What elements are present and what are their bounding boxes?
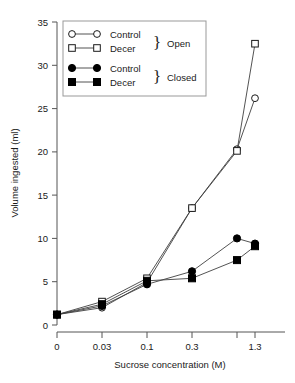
filled-circle-icon [93, 64, 100, 71]
y-axis-title: Volume ingested (ml) [9, 128, 20, 217]
y-tick-label-10: 10 [37, 233, 48, 244]
open-square-icon [94, 45, 101, 52]
x-axis-title: Sucrose concentration (M) [114, 359, 225, 370]
data-point [99, 301, 106, 308]
chart-figure: 0 5 10 15 20 25 30 35 Volume ingested (m… [0, 0, 295, 383]
data-point [252, 40, 259, 47]
x-tick-label-0.3: 0.3 [185, 341, 198, 352]
x-tick-label-0.1: 0.1 [140, 341, 153, 352]
y-tick-label-25: 25 [37, 103, 48, 114]
open-square-icon [69, 45, 76, 52]
legend-label-open-control: Control [110, 29, 141, 40]
data-point [234, 148, 241, 155]
y-tick-label-35: 35 [37, 17, 48, 28]
legend-label-open-decer: Decer [110, 43, 135, 54]
open-circle-icon [69, 31, 76, 38]
data-point [252, 243, 259, 250]
y-tick-label-5: 5 [43, 276, 48, 287]
filled-circle-icon [68, 64, 75, 71]
x-tick-label-0: 0 [54, 341, 59, 352]
open-circle-icon [94, 31, 101, 38]
data-point [234, 257, 241, 264]
data-point [189, 205, 196, 212]
legend-label-closed-control: Control [110, 63, 141, 74]
data-point [252, 95, 259, 102]
brace-icon-closed: } [153, 67, 161, 86]
data-point [188, 268, 195, 275]
legend-group-open: Open [167, 38, 190, 49]
chart-legend: Control Decer } Open Control [63, 21, 206, 96]
data-point [233, 235, 240, 242]
volume-ingested-line-chart: 0 5 10 15 20 25 30 35 Volume ingested (m… [0, 0, 295, 383]
x-tick-label-0.03: 0.03 [93, 341, 112, 352]
y-tick-label-15: 15 [37, 190, 48, 201]
y-tick-label-20: 20 [37, 146, 48, 157]
y-tick-label-30: 30 [37, 60, 48, 71]
data-point [189, 275, 196, 282]
x-tick-label-1.3: 1.3 [248, 341, 261, 352]
legend-label-closed-decer: Decer [110, 77, 135, 88]
y-tick-label-0: 0 [43, 320, 48, 331]
filled-square-icon [94, 79, 101, 86]
filled-square-icon [69, 79, 76, 86]
data-point [144, 277, 151, 284]
brace-icon-open: } [153, 33, 161, 52]
data-point [54, 311, 61, 318]
legend-group-closed: Closed [167, 72, 197, 83]
